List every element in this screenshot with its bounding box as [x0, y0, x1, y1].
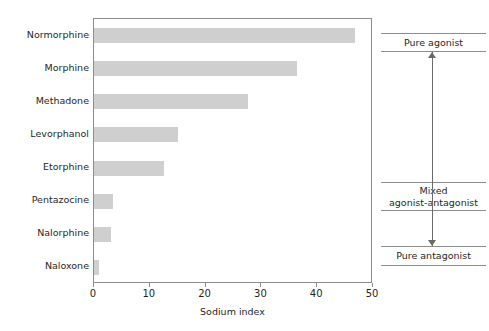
bar-row — [94, 52, 371, 85]
x-tick-mark — [260, 283, 261, 287]
sodium-index-bar-chart-figure: NormorphineMorphineMethadoneLevorphanolE… — [0, 0, 489, 331]
bar-row — [94, 85, 371, 118]
bar-row — [94, 218, 371, 251]
category-label-nalorphine: Nalorphine — [1, 227, 89, 238]
x-tick-mark — [205, 283, 206, 287]
category-axis-labels: NormorphineMorphineMethadoneLevorphanolE… — [0, 18, 89, 283]
category-label-normorphine: Normorphine — [1, 29, 89, 40]
annotation-mixed-label-line2: agonist-antagonist — [381, 197, 486, 209]
category-label-pentazocine: Pentazocine — [1, 194, 89, 205]
x-axis-ticks: 01020304050 — [93, 283, 372, 305]
annotation-mixed-label-line1: Mixed — [381, 185, 486, 197]
x-axis-title: Sodium index — [93, 306, 372, 317]
category-label-methadone: Methadone — [1, 95, 89, 106]
x-tick-mark — [149, 283, 150, 287]
bar-row — [94, 251, 371, 284]
bar-normorphine — [94, 28, 355, 43]
annotation-pure-antagonist: Pure antagonist — [381, 246, 486, 266]
plot-area — [93, 18, 372, 283]
bar-row — [94, 185, 371, 218]
arrow-down-icon — [428, 240, 436, 246]
category-label-naloxone: Naloxone — [1, 260, 89, 271]
arrow-up-icon — [428, 52, 436, 58]
x-tick-mark — [372, 283, 373, 287]
x-tick-label-30: 30 — [254, 288, 267, 300]
spectrum-arrow-line — [432, 52, 433, 246]
classification-annotations: Pure agonist Mixed agonist-antagonist Pu… — [378, 0, 489, 331]
category-label-etorphine: Etorphine — [1, 161, 89, 172]
x-tick-label-20: 20 — [198, 288, 211, 300]
annotation-mixed-agonist-antagonist: Mixed agonist-antagonist — [381, 182, 486, 211]
bar-naloxone — [94, 260, 99, 275]
bar-row — [94, 118, 371, 151]
annotation-pure-agonist: Pure agonist — [381, 33, 486, 52]
x-tick-label-0: 0 — [90, 288, 96, 300]
category-label-levorphanol: Levorphanol — [1, 128, 89, 139]
x-tick-label-10: 10 — [142, 288, 155, 300]
bar-row — [94, 19, 371, 52]
bar-row — [94, 152, 371, 185]
bar-morphine — [94, 61, 297, 76]
bar-etorphine — [94, 161, 164, 176]
x-tick-label-50: 50 — [366, 288, 379, 300]
category-label-morphine: Morphine — [1, 62, 89, 73]
bar-nalorphine — [94, 227, 111, 242]
bar-pentazocine — [94, 194, 113, 209]
bar-methadone — [94, 94, 248, 109]
x-tick-mark — [93, 283, 94, 287]
x-tick-label-40: 40 — [310, 288, 323, 300]
bar-levorphanol — [94, 127, 178, 142]
annotation-pure-antagonist-label: Pure antagonist — [381, 250, 486, 262]
x-tick-mark — [316, 283, 317, 287]
annotation-pure-agonist-label: Pure agonist — [381, 37, 486, 49]
